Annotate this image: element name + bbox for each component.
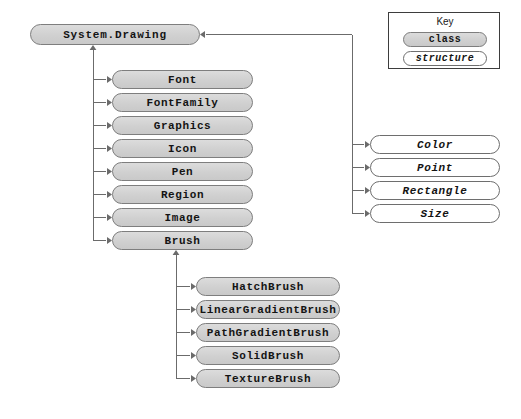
node-fontfamily[interactable]: FontFamily (112, 93, 253, 112)
legend-structure-label: structure (416, 53, 475, 64)
node-pathgradientbrush[interactable]: PathGradientBrush (196, 323, 340, 342)
node-lineargradientbrush[interactable]: LinearGradientBrush (196, 300, 340, 319)
node-label: Color (417, 139, 453, 151)
node-pen[interactable]: Pen (112, 162, 253, 181)
node-graphics[interactable]: Graphics (112, 116, 253, 135)
legend-key-box: Key class structure (388, 12, 500, 69)
legend-title: Key (389, 16, 501, 27)
node-color[interactable]: Color (370, 135, 500, 154)
node-hatchbrush[interactable]: HatchBrush (196, 277, 340, 296)
node-brush[interactable]: Brush (112, 231, 253, 250)
node-rectangle[interactable]: Rectangle (370, 181, 500, 200)
node-system-drawing[interactable]: System.Drawing (30, 24, 200, 45)
node-label: Graphics (154, 120, 212, 132)
node-label: System.Drawing (63, 29, 167, 41)
node-image[interactable]: Image (112, 208, 253, 227)
node-label: Size (421, 208, 450, 220)
node-label: Brush (164, 235, 200, 247)
node-label: Pen (172, 166, 194, 178)
node-label: Region (161, 189, 204, 201)
node-label: SolidBrush (232, 350, 304, 362)
node-label: LinearGradientBrush (200, 304, 337, 316)
node-label: FontFamily (146, 97, 218, 109)
node-font[interactable]: Font (112, 70, 253, 89)
legend-class-label: class (429, 34, 462, 45)
node-label: HatchBrush (232, 281, 304, 293)
node-solidbrush[interactable]: SolidBrush (196, 346, 340, 365)
node-label: PathGradientBrush (207, 327, 329, 339)
node-label: TextureBrush (225, 373, 311, 385)
node-point[interactable]: Point (370, 158, 500, 177)
node-texturebrush[interactable]: TextureBrush (196, 369, 340, 388)
legend-structure-swatch: structure (403, 51, 487, 66)
legend-class-swatch: class (403, 32, 487, 47)
node-label: Image (164, 212, 200, 224)
node-size[interactable]: Size (370, 204, 500, 223)
class-diagram-canvas: System.Drawing FontFontFamilyGraphicsIco… (0, 0, 521, 419)
node-region[interactable]: Region (112, 185, 253, 204)
node-label: Icon (168, 143, 197, 155)
node-label: Point (417, 162, 453, 174)
node-label: Rectangle (403, 185, 468, 197)
node-icon[interactable]: Icon (112, 139, 253, 158)
node-label: Font (168, 74, 197, 86)
